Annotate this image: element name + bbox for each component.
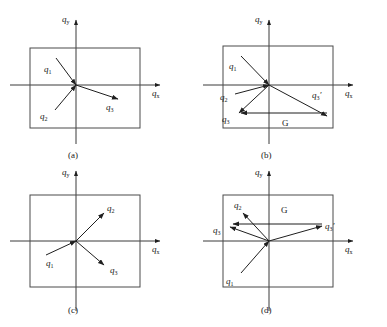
vector-q1-a [56, 58, 76, 85]
zone-box-b [223, 46, 333, 128]
vector-label-q3-d: q3 [213, 225, 221, 236]
vector-q3-c [76, 241, 104, 265]
panel-caption-d: (d) [261, 305, 272, 315]
panel-a: qy qx q1 q2 q3 (a) [0, 0, 193, 163]
vector-label-G-b: G [282, 118, 289, 128]
vector-q2-a [55, 85, 76, 110]
vector-label-q1-c: q1 [46, 258, 54, 269]
vector-label-q1-a: q1 [44, 64, 52, 75]
vector-label-q3-b: q3 [222, 114, 230, 125]
y-axis-label-b: qy [255, 14, 263, 25]
panel-d: qy qx q1 q2 q3 q3′ G (d) [193, 163, 386, 326]
panel-caption-a: (a) [68, 150, 78, 160]
y-axis-label-c: qy [62, 167, 70, 178]
vector-label-q3-prime-b: q3′ [312, 90, 323, 101]
vector-q1-d [241, 241, 269, 273]
vector-q1-c [46, 241, 76, 255]
vector-label-q2-a: q2 [40, 111, 48, 122]
x-axis-label-a: qx [152, 88, 160, 99]
figure-container: qy qx q1 q2 q3 (a) [0, 0, 387, 327]
vector-label-q3-c: q3 [110, 265, 118, 276]
vector-q3-a [76, 85, 118, 99]
vector-q3-prime-d [269, 226, 322, 241]
vector-label-q3-prime-d: q3′ [325, 221, 336, 232]
y-axis-label-d: qy [255, 167, 263, 178]
vector-label-q2-c: q2 [107, 203, 115, 214]
vector-label-q3-a: q3 [106, 102, 114, 113]
vector-label-q1-b: q1 [229, 61, 237, 72]
panel-c: qy qx q1 q2 q3 (c) [0, 163, 193, 326]
x-axis-label-c: qx [152, 244, 160, 255]
panel-caption-c: (c) [68, 305, 78, 315]
panel-b: qy qx q1 q2 q3 q3′ G (b) [193, 0, 386, 163]
x-axis-label-b: qx [345, 88, 353, 99]
vector-label-q2-d: q2 [234, 200, 242, 211]
vector-label-G-d: G [281, 205, 288, 215]
vector-label-q2-b: q2 [220, 92, 228, 103]
vector-q1-b [241, 56, 269, 85]
panel-caption-b: (b) [261, 150, 272, 160]
x-axis-label-d: qx [345, 244, 353, 255]
vector-q2-c [76, 213, 104, 241]
y-axis-label-a: qy [62, 14, 70, 25]
vector-label-q1-d: q1 [226, 276, 234, 287]
